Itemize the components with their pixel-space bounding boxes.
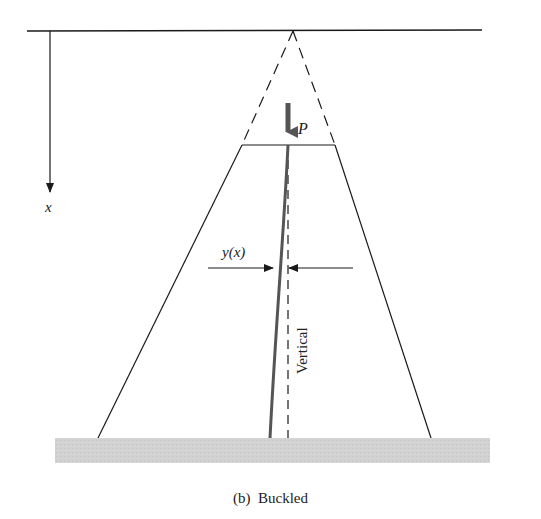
buckled-column-diagram: x P y(x) Vertical xyxy=(0,0,541,519)
top-reference-line xyxy=(27,30,482,31)
deflection-label: y(x) xyxy=(220,244,245,261)
ground-base xyxy=(55,438,490,463)
buckled-column xyxy=(270,145,288,438)
taper-side-right xyxy=(335,145,431,438)
x-axis-label: x xyxy=(44,199,52,215)
vertical-label: Vertical xyxy=(294,327,310,374)
figure-caption: (b) Buckled xyxy=(0,490,541,507)
dashed-extension-left xyxy=(242,31,293,145)
load-label: P xyxy=(297,120,308,137)
taper-side-left xyxy=(98,145,242,438)
